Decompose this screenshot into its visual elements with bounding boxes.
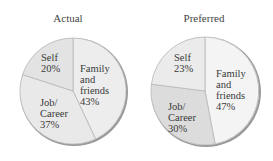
label-job-career: Job/Career30% bbox=[168, 101, 196, 134]
label-job-career: Job/Career37% bbox=[40, 97, 68, 130]
actual-pie-chart: Actual Self20% Familyand friends43% Job/… bbox=[0, 0, 136, 161]
preferred-pie-graphic bbox=[136, 0, 272, 161]
label-self: Self20% bbox=[41, 52, 60, 74]
label-family-and-friends: Familyand friends47% bbox=[216, 68, 246, 112]
label-self: Self23% bbox=[174, 52, 193, 74]
preferred-pie-chart: Preferred Self23% Familyand friends47% J… bbox=[136, 0, 272, 161]
label-family-and-friends: Familyand friends43% bbox=[80, 63, 110, 107]
actual-pie-graphic bbox=[0, 0, 136, 161]
